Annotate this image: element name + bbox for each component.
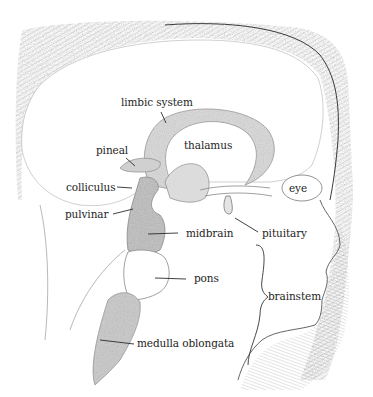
label-midbrain: midbrain (186, 227, 233, 239)
label-limbic-system: limbic system (121, 96, 193, 108)
pituitary-shape (224, 196, 232, 214)
label-pulvinar: pulvinar (65, 208, 108, 220)
label-colliculus: colliculus (66, 181, 115, 193)
label-brainstem: brainstem (268, 290, 321, 302)
label-pons: pons (194, 272, 219, 284)
pons-shape (124, 250, 169, 300)
label-medulla-oblongata: medulla oblongata (137, 337, 234, 349)
label-pituitary: pituitary (262, 227, 307, 239)
label-eye: eye (289, 182, 307, 194)
label-thalamus: thalamus (184, 139, 232, 151)
brain-sagittal-diagram: limbic system thalamus pineal colliculus… (0, 0, 373, 397)
optic-nerve (200, 186, 272, 196)
brainstem-brace (248, 245, 268, 365)
label-pineal: pineal (96, 144, 128, 156)
